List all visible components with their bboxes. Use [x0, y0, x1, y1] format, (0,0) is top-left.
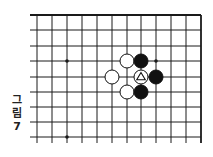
caption-char-2: 림 — [9, 107, 25, 120]
caption-char-1: 그 — [9, 94, 25, 107]
black-stone — [134, 54, 148, 68]
star-point — [65, 59, 69, 63]
caption-char-3: 7 — [9, 120, 25, 133]
white-stone — [105, 70, 119, 84]
star-point — [154, 59, 158, 63]
white-stone — [120, 54, 134, 68]
white-stone — [134, 70, 148, 84]
go-board-diagram — [0, 0, 213, 157]
star-point — [65, 135, 69, 139]
white-stone — [120, 85, 134, 99]
black-stone — [149, 70, 163, 84]
figure-caption: 그 림 7 — [9, 94, 25, 133]
black-stone — [134, 85, 148, 99]
